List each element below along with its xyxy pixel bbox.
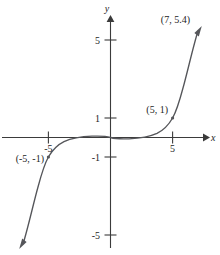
point-marker-neg5-neg1 — [47, 155, 50, 158]
annotation-5-1: (5, 1) — [146, 104, 168, 116]
y-tick-label-1: 1 — [95, 113, 100, 124]
x-tick-label-neg5: -5 — [44, 143, 52, 154]
x-axis-label: x — [210, 132, 216, 143]
x-tick-label-5: 5 — [170, 143, 175, 154]
annotation-neg5-neg1: (-5, -1) — [16, 153, 44, 165]
graph-figure: x y -5 5 5 1 -1 -5 (7, 5.4) (5, 1) (-5, … — [0, 0, 220, 255]
y-axis-label: y — [104, 3, 110, 14]
y-tick-label-5: 5 — [95, 35, 100, 46]
point-marker-5-1 — [171, 116, 174, 119]
curve-upper-arrow-icon — [194, 26, 201, 36]
coordinate-plane-svg: x y -5 5 5 1 -1 -5 (7, 5.4) (5, 1) (-5, … — [0, 0, 220, 255]
y-axis-arrow-icon — [107, 15, 115, 22]
y-tick-label-neg1: -1 — [92, 152, 100, 163]
annotation-7-5p4: (7, 5.4) — [161, 14, 190, 26]
x-axis-arrow-icon — [203, 134, 210, 142]
y-tick-label-neg5: -5 — [92, 230, 100, 241]
curve-lower-arrow-icon — [19, 239, 26, 249]
